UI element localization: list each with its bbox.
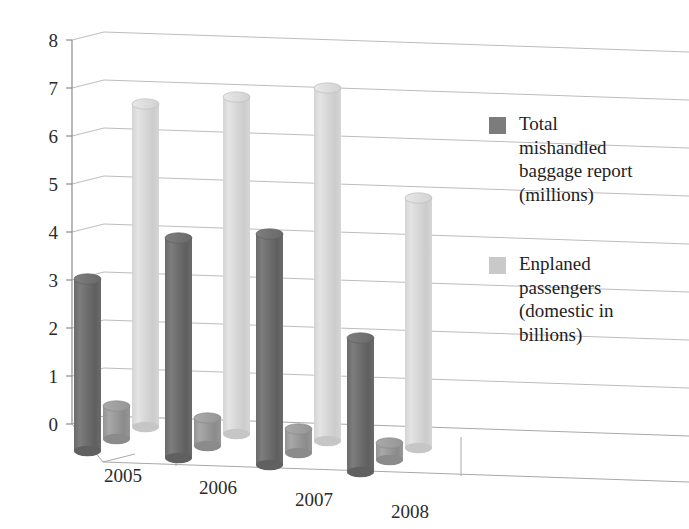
bar-2006-enplaned [223, 92, 250, 439]
x-tick-label-2008: 2008 [391, 501, 429, 522]
y-tick-label-2: 2 [49, 318, 59, 339]
x-axis-labels: 2005 2006 2007 2008 [104, 465, 429, 522]
y-tick-label-1: 1 [49, 366, 59, 387]
y-tick-label-7: 7 [49, 78, 59, 99]
y-tick-label-3: 3 [49, 270, 59, 291]
bar-group-2008 [347, 193, 432, 477]
x-tick-label-2005: 2005 [104, 465, 142, 486]
y-axis: 8 7 6 5 4 3 2 1 0 [49, 30, 73, 435]
legend-swatch-mishandled-baggage [489, 117, 506, 134]
bar-2008-enplaned [405, 193, 432, 453]
bar-2006-mid [194, 413, 221, 451]
bar-2005-mishandled [74, 274, 101, 456]
bar-group-2007 [256, 83, 341, 470]
y-tick-label-0: 0 [49, 414, 59, 435]
x-tick-label-2006: 2006 [199, 477, 237, 498]
legend-item-mishandled-baggage[interactable]: Total mishandled baggage report (million… [489, 112, 685, 206]
bar-2007-mid [285, 424, 312, 458]
chart-legend: Total mishandled baggage report (million… [489, 112, 685, 392]
chart-container: 8 7 6 5 4 3 2 1 0 [0, 0, 689, 529]
bar-group-2005 [74, 99, 159, 456]
legend-label-enplaned-passengers: Enplaned passengers (domestic in billion… [519, 252, 613, 346]
bar-2005-enplaned [132, 99, 159, 432]
bar-2007-enplaned [314, 83, 341, 446]
bar-2008-mid [376, 438, 403, 465]
y-tick-label-8: 8 [49, 30, 59, 51]
bar-group-2006 [165, 92, 250, 463]
y-tick-label-6: 6 [49, 126, 59, 147]
y-tick-label-5: 5 [49, 174, 59, 195]
x-tick-label-2007: 2007 [295, 489, 333, 510]
bar-2005-mid [103, 401, 130, 444]
bar-2007-mishandled [256, 229, 283, 470]
bar-2006-mishandled [165, 233, 192, 463]
y-tick-label-4: 4 [49, 222, 59, 243]
legend-item-enplaned-passengers[interactable]: Enplaned passengers (domestic in billion… [489, 252, 685, 346]
legend-swatch-enplaned-passengers [489, 257, 506, 274]
bar-2008-mishandled [347, 333, 374, 477]
legend-label-mishandled-baggage: Total mishandled baggage report (million… [519, 112, 632, 206]
